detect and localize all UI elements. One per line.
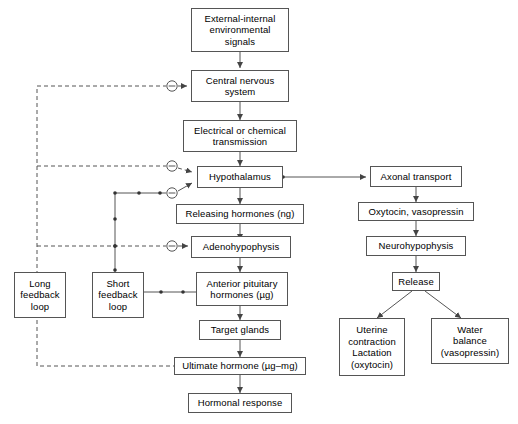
- node-cns: Central nervous system: [191, 70, 289, 102]
- edge-short-feedback-hypothalamus: [178, 183, 192, 191]
- node-external-signals: External-internal environmental signals: [191, 8, 289, 52]
- flowchart-canvas: External-internal environmental signals …: [0, 0, 518, 424]
- node-uterine-contraction: Uterine contraction Lactation (oxytocin): [339, 318, 405, 376]
- node-anterior-pituitary: Anterior pituitary hormones (µg): [196, 272, 288, 306]
- node-release: Release: [392, 272, 440, 291]
- node-axonal-transport: Axonal transport: [370, 166, 462, 187]
- node-hypothalamus: Hypothalamus: [197, 166, 283, 188]
- node-short-feedback-loop: Short feedback loop: [92, 272, 144, 318]
- edge-release-water: [425, 291, 461, 318]
- node-transmission: Electrical or chemical transmission: [183, 120, 297, 152]
- node-hormonal-response: Hormonal response: [188, 393, 292, 413]
- node-neurohypophysis: Neurohypophysis: [366, 236, 466, 256]
- node-water-balance: Water balance (vasopressin): [431, 318, 509, 364]
- node-adenohypophysis: Adenohypophysis: [191, 236, 291, 258]
- node-target-glands: Target glands: [199, 320, 281, 340]
- node-long-feedback-loop: Long feedback loop: [14, 272, 66, 318]
- edge-release-uterine: [377, 291, 412, 318]
- node-releasing-hormones: Releasing hormones (ng): [176, 204, 304, 224]
- edge-long-feedback-hypothalamus: [178, 168, 192, 172]
- node-oxytocin-vasopressin: Oxytocin, vasopressin: [358, 202, 474, 221]
- node-ultimate-hormone: Ultimate hormone (µg–mg): [174, 357, 306, 375]
